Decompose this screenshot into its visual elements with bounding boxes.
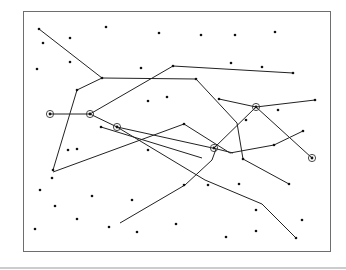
- path-lines: [39, 29, 315, 238]
- data-point: [166, 96, 169, 99]
- data-point: [277, 109, 280, 112]
- data-point: [274, 31, 277, 34]
- path-line: [117, 127, 296, 238]
- path-line: [120, 149, 216, 223]
- highlighted-point: [213, 147, 216, 150]
- path-line: [173, 66, 293, 73]
- highlighted-point: [89, 113, 92, 116]
- data-point: [195, 78, 198, 81]
- data-point: [52, 169, 55, 172]
- data-point: [230, 62, 233, 65]
- data-point: [172, 65, 175, 68]
- data-point: [261, 66, 264, 69]
- data-point: [183, 123, 186, 126]
- path-line: [53, 124, 303, 172]
- data-point: [273, 144, 276, 147]
- data-point: [245, 119, 248, 122]
- data-point: [183, 184, 186, 187]
- data-point: [147, 149, 150, 152]
- data-point: [101, 77, 104, 80]
- data-point: [69, 61, 72, 64]
- data-point: [39, 189, 42, 192]
- data-point: [255, 230, 258, 233]
- data-point: [288, 183, 291, 186]
- path-line: [219, 99, 315, 107]
- data-point: [136, 231, 139, 234]
- data-point: [238, 183, 241, 186]
- data-point: [295, 237, 298, 240]
- data-point: [51, 177, 54, 180]
- data-point: [242, 158, 245, 161]
- data-point: [158, 32, 161, 35]
- diagram-frame: [24, 12, 331, 252]
- data-point: [34, 228, 37, 231]
- highlighted-point: [255, 106, 258, 109]
- highlighted-point: [311, 157, 314, 160]
- highlighted-point: [49, 113, 52, 116]
- data-point: [69, 37, 72, 40]
- data-point: [131, 199, 134, 202]
- data-point: [91, 195, 94, 198]
- data-point: [314, 99, 317, 102]
- path-line: [50, 66, 173, 114]
- data-point: [147, 100, 150, 103]
- data-point: [42, 42, 45, 45]
- data-point: [225, 236, 228, 239]
- path-line: [90, 114, 233, 153]
- highlighted-point: [116, 126, 119, 129]
- path-line: [53, 78, 102, 170]
- data-point: [105, 26, 108, 29]
- data-point: [100, 126, 103, 129]
- data-point: [54, 205, 57, 208]
- data-point: [140, 67, 143, 70]
- network-diagram: [0, 0, 346, 270]
- data-point: [76, 218, 79, 221]
- data-point: [76, 148, 79, 151]
- data-point: [38, 28, 41, 31]
- data-point: [175, 223, 178, 226]
- data-point: [301, 219, 304, 222]
- data-point: [292, 72, 295, 75]
- data-point: [108, 226, 111, 229]
- data-point: [234, 34, 237, 37]
- data-point: [302, 130, 305, 133]
- data-point: [200, 34, 203, 37]
- data-point: [76, 89, 79, 92]
- data-point: [207, 184, 210, 187]
- data-point: [255, 209, 258, 212]
- data-point: [218, 98, 221, 101]
- data-point: [36, 68, 39, 71]
- highlighted-points: [46, 103, 315, 161]
- data-point: [67, 149, 70, 152]
